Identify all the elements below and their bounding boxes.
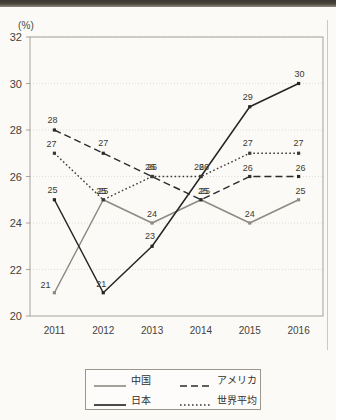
legend-label: アメリカ [217, 372, 257, 387]
data-point-marker [102, 198, 105, 201]
data-point-marker [150, 175, 153, 178]
data-point-label: 26 [194, 162, 204, 172]
data-point-marker [53, 291, 56, 294]
data-point-marker [150, 245, 153, 248]
data-point-label: 23 [145, 231, 155, 241]
data-point-label: 25 [98, 186, 108, 196]
y-tick-label: 24 [10, 217, 22, 229]
legend-label: 世界平均 [217, 392, 257, 407]
data-point-marker [102, 152, 105, 155]
series-lines [54, 84, 298, 293]
legend-label: 中国 [131, 372, 151, 387]
data-point-labels: 2125242524252521232629302827262526262725… [40, 69, 305, 290]
data-point-marker [53, 152, 56, 155]
data-point-label: 29 [243, 92, 253, 102]
legend-swatch-dotted [180, 395, 212, 403]
legend-swatch-solid [94, 376, 126, 384]
data-point-label: 21 [40, 280, 50, 290]
y-tick-label: 30 [10, 78, 22, 90]
data-point-marker [53, 128, 56, 131]
legend-swatch-solid [94, 395, 126, 403]
data-point-marker [248, 175, 251, 178]
data-point-label: 26 [243, 163, 253, 173]
y-tick-label: 22 [10, 264, 22, 276]
data-point-label: 27 [243, 138, 253, 148]
legend-label: 日本 [131, 392, 151, 407]
legend-grid: 中国アメリカ日本世界平均 [86, 370, 260, 409]
x-axis-ticks: 201120122013201420152016 [44, 325, 310, 336]
y-tick-label: 28 [10, 124, 22, 136]
legend-item[interactable]: 世界平均 [172, 392, 262, 407]
x-tick-label: 2016 [287, 325, 310, 336]
data-point-label: 27 [294, 138, 304, 148]
chart-legend: 中国アメリカ日本世界平均 [85, 369, 261, 410]
data-point-label: 24 [147, 209, 157, 219]
data-point-label: 26 [296, 163, 306, 173]
y-axis-ticks: 32302826242220 [10, 31, 30, 322]
data-point-label: 27 [98, 138, 108, 148]
data-point-label: 27 [46, 139, 56, 149]
data-point-label: 21 [96, 279, 106, 289]
data-point-marker [199, 198, 202, 201]
legend-swatch-dashed [180, 376, 212, 384]
data-point-label: 24 [245, 209, 255, 219]
data-point-marker [297, 82, 300, 85]
x-tick-label: 2012 [92, 325, 115, 336]
data-point-marker [248, 105, 251, 108]
gridlines [30, 37, 323, 270]
data-point-marker [199, 175, 202, 178]
data-point-label: 25 [47, 185, 57, 195]
data-point-label: 28 [47, 115, 57, 125]
legend-item[interactable]: 日本 [86, 392, 172, 407]
data-point-label: 25 [296, 186, 306, 196]
y-tick-label: 20 [10, 310, 22, 322]
data-point-marker [53, 198, 56, 201]
x-tick-label: 2014 [190, 325, 213, 336]
line-chart: (%) 32302826242220 201120122013201420152… [0, 7, 336, 352]
data-point-label: 25 [200, 186, 210, 196]
data-point-marker [248, 152, 251, 155]
data-point-marker [297, 152, 300, 155]
x-tick-label: 2013 [141, 325, 164, 336]
scan-edge-right [336, 0, 347, 420]
data-point-marker [102, 291, 105, 294]
scan-edge-top [0, 0, 347, 7]
data-point-label: 26 [145, 162, 155, 172]
data-point-label: 30 [295, 69, 305, 79]
legend-item[interactable]: アメリカ [172, 372, 262, 387]
data-point-marker [248, 221, 251, 224]
chart-page: (%) 32302826242220 201120122013201420152… [0, 0, 347, 420]
chart-plot: 32302826242220 201120122013201420152016 … [0, 7, 336, 352]
data-point-marker [297, 198, 300, 201]
x-tick-label: 2011 [44, 325, 66, 336]
y-tick-label: 26 [10, 171, 22, 183]
data-point-marker [297, 175, 300, 178]
legend-item[interactable]: 中国 [86, 372, 172, 387]
series-line-中国 [54, 200, 298, 293]
y-tick-label: 32 [10, 31, 22, 43]
data-point-marker [150, 221, 153, 224]
x-tick-label: 2015 [239, 325, 262, 336]
series-line-アメリカ [54, 130, 298, 200]
